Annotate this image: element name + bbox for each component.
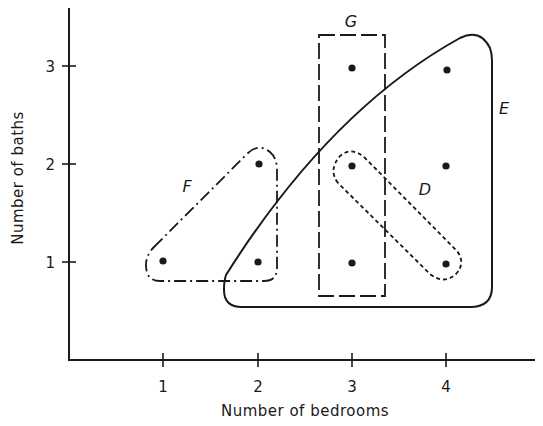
- set-e-outline: [224, 35, 492, 307]
- point-4-1: [442, 260, 449, 267]
- x-tick-label-1: 1: [158, 378, 168, 396]
- point-3-2: [348, 162, 355, 169]
- x-tick-label-2: 2: [253, 378, 263, 396]
- y-tick-label-2: 2: [45, 156, 55, 174]
- y-axis-label: Number of baths: [9, 111, 27, 245]
- point-4-3: [443, 66, 450, 73]
- set-label-f: F: [182, 177, 192, 196]
- set-diagram: 1 2 3 4 1 2 3 Number of bedrooms Number …: [0, 0, 543, 426]
- point-3-3: [348, 64, 355, 71]
- y-tick-label-1: 1: [45, 254, 55, 272]
- point-3-1: [348, 259, 355, 266]
- point-2-2: [255, 160, 262, 167]
- ticks: [62, 66, 446, 367]
- set-label-g: G: [345, 12, 357, 31]
- set-label-e: E: [499, 99, 510, 118]
- point-4-2: [442, 162, 449, 169]
- x-axis-label: Number of bedrooms: [221, 402, 389, 420]
- x-tick-label-4: 4: [441, 378, 451, 396]
- point-2-1: [254, 258, 261, 265]
- x-tick-label-3: 3: [347, 378, 357, 396]
- y-tick-label-3: 3: [45, 58, 55, 76]
- set-label-d: D: [419, 180, 431, 199]
- point-1-1: [159, 257, 166, 264]
